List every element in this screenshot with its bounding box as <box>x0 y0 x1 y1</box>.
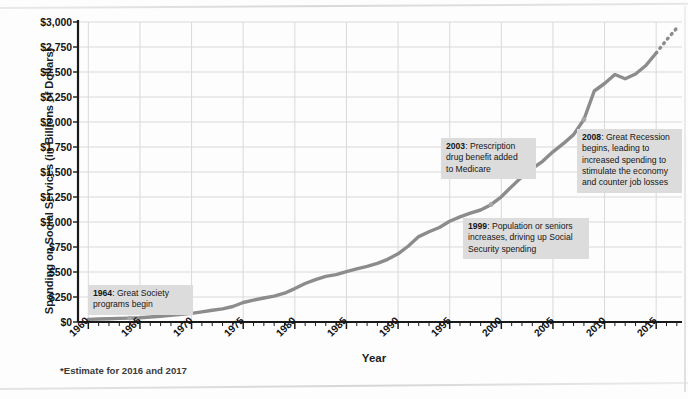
x-tick-label: 2000 <box>480 315 504 339</box>
annotation-1964-rest: : Great Society <box>112 288 169 298</box>
annotation-1964-line2: programs begin <box>93 299 188 310</box>
x-tick-label: 1970 <box>171 315 195 339</box>
x-tick-label: 2010 <box>584 315 608 339</box>
annotation-1999-line2: increases, driving up Social <box>468 232 584 243</box>
annotation-2008-year: 2008 <box>582 132 601 142</box>
x-axis-title: Year <box>0 352 688 364</box>
annotation-2003-rest: : Prescription <box>465 141 515 151</box>
annotation-1999-line1: 1999: Population or seniors <box>468 221 584 232</box>
annotation-2003-line3: to Medicare <box>446 164 531 175</box>
x-tick-label: 1965 <box>119 315 143 339</box>
annotation-1964-line1: 1964: Great Society <box>93 288 188 299</box>
annotation-1999-rest: : Population or seniors <box>487 221 573 231</box>
chart-footnote: *Estimate for 2016 and 2017 <box>60 365 187 376</box>
annotation-2003-line1: 2003: Prescription <box>446 141 531 152</box>
x-tick-label: 1960 <box>67 315 91 339</box>
x-tick-label: 1985 <box>325 315 349 339</box>
annotation-1999-line3: Security spending <box>468 244 584 255</box>
annotation-1999: 1999: Population or seniors increases, d… <box>463 218 589 259</box>
annotation-2008-line3: increased spending to <box>582 155 677 166</box>
x-axis-tick-labels: 1960196519701975198019851990199520002005… <box>0 0 688 399</box>
annotation-1999-year: 1999 <box>468 221 487 231</box>
x-tick-label: 2005 <box>532 315 556 339</box>
x-tick-label: 1975 <box>222 315 246 339</box>
annotation-2008-line1: 2008: Great Recession <box>582 132 677 143</box>
annotation-1964: 1964: Great Society programs begin <box>88 285 193 315</box>
annotation-2008-line5: and counter job losses <box>582 177 677 188</box>
x-tick-label: 2015 <box>635 315 659 339</box>
annotation-2008: 2008: Great Recession begins, leading to… <box>577 129 682 193</box>
annotation-2008-line2: begins, leading to <box>582 143 677 154</box>
x-tick-label: 1995 <box>429 315 453 339</box>
annotation-2008-rest: : Great Recession <box>601 132 670 142</box>
annotation-2003: 2003: Prescription drug benefit added to… <box>441 138 536 179</box>
x-axis-title-text: Year <box>362 352 386 364</box>
annotation-1964-year: 1964 <box>93 288 112 298</box>
x-tick-label: 1980 <box>274 315 298 339</box>
annotation-2008-line4: stimulate the economy <box>582 166 677 177</box>
chart-page: Spending on Social Services (in Billions… <box>0 0 688 399</box>
annotation-2003-year: 2003 <box>446 141 465 151</box>
annotation-2003-line2: drug benefit added <box>446 152 531 163</box>
x-tick-label: 1990 <box>377 315 401 339</box>
